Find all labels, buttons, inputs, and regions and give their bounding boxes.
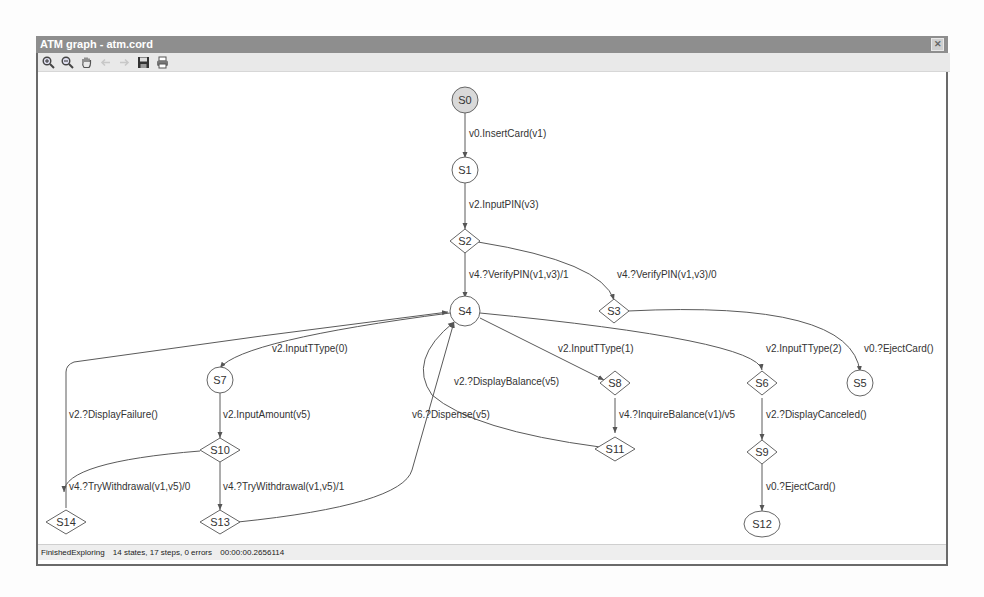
edge-label: v2.?DisplayCanceled() [766, 409, 867, 420]
zoom-out-icon [61, 56, 74, 69]
zoom-in-icon [42, 56, 55, 69]
edge-label: v4.?TryWithdrawal(v1,v5)/0 [69, 481, 191, 492]
edge-label: v6.?Dispense(v5) [412, 409, 490, 420]
zoom-out-button[interactable] [61, 56, 74, 69]
forward-button[interactable] [118, 56, 131, 69]
edge-label: v2.?DisplayFailure() [69, 409, 158, 420]
edge-label: v0.?EjectCard() [766, 481, 835, 492]
svg-text:S10: S10 [210, 444, 230, 456]
svg-text:S7: S7 [213, 374, 226, 386]
edge-label: v2.?DisplayBalance(v5) [454, 376, 559, 387]
edge-s3-s5 [628, 310, 860, 372]
print-button[interactable] [156, 56, 169, 69]
status-bar: FinishedExploring 14 states, 17 steps, 0… [38, 544, 946, 560]
edge-labels: v0.InsertCard(v1) v2.InputPIN(v3) v4.?Ve… [69, 128, 933, 492]
node-s6[interactable]: S6 [747, 371, 777, 395]
close-button[interactable]: ✕ [931, 38, 944, 51]
svg-text:S14: S14 [56, 516, 76, 528]
pan-button[interactable] [80, 56, 93, 69]
toolbar [38, 53, 950, 72]
graph-canvas[interactable]: S0 S1 S2 S3 S4 S5 S6 S7 S8 S9 S10 S11 S1… [38, 72, 946, 542]
node-s14[interactable]: S14 [46, 510, 86, 534]
svg-text:S1: S1 [458, 164, 471, 176]
svg-text:S8: S8 [608, 377, 621, 389]
title-bar[interactable]: ATM graph - atm.cord ✕ [36, 36, 948, 53]
edge-s4-s6 [480, 313, 762, 370]
node-s3[interactable]: S3 [599, 299, 629, 323]
node-s12[interactable]: S12 [744, 511, 780, 537]
node-s8[interactable]: S8 [600, 371, 630, 395]
edge-label: v2.InputAmount(v5) [223, 409, 310, 420]
node-s10[interactable]: S10 [200, 438, 240, 462]
svg-text:S2: S2 [458, 235, 471, 247]
edge-s4-s7 [220, 313, 450, 368]
node-s7[interactable]: S7 [207, 367, 233, 393]
edge-label: v0.?EjectCard() [864, 343, 933, 354]
back-button[interactable] [99, 56, 112, 69]
svg-text:S12: S12 [752, 518, 772, 530]
status-summary: 14 states, 17 steps, 0 errors [113, 548, 212, 557]
node-s4[interactable]: S4 [450, 296, 480, 326]
node-s2[interactable]: S2 [450, 229, 480, 253]
atm-graph-window: ATM graph - atm.cord ✕ [36, 36, 948, 566]
node-s1[interactable]: S1 [452, 157, 478, 183]
svg-text:S5: S5 [853, 377, 866, 389]
svg-text:S9: S9 [755, 446, 768, 458]
status-elapsed: 00:00:00.2656114 [220, 548, 284, 557]
svg-text:S13: S13 [210, 516, 230, 528]
zoom-in-button[interactable] [42, 56, 55, 69]
svg-text:S6: S6 [755, 377, 768, 389]
arrow-left-icon [99, 56, 112, 69]
svg-text:S11: S11 [606, 443, 625, 455]
node-s11[interactable]: S11 [595, 437, 635, 461]
status-state: FinishedExploring [41, 548, 105, 557]
svg-text:S3: S3 [607, 305, 620, 317]
edge-label: v4.?VerifyPIN(v1,v3)/0 [617, 269, 717, 280]
node-s13[interactable]: S13 [200, 510, 240, 534]
state-graph: S0 S1 S2 S3 S4 S5 S6 S7 S8 S9 S10 S11 S1… [38, 72, 946, 542]
edge-label: v0.InsertCard(v1) [469, 128, 546, 139]
edge-label: v4.?VerifyPIN(v1,v3)/1 [469, 269, 569, 280]
edge-label: v2.InputTType(1) [558, 343, 634, 354]
hand-icon [80, 56, 93, 69]
save-button[interactable] [137, 56, 150, 69]
edge-label: v2.InputTType(2) [766, 343, 842, 354]
svg-text:S0: S0 [458, 94, 471, 106]
node-s5[interactable]: S5 [847, 370, 873, 396]
printer-icon [156, 56, 169, 69]
edge-label: v4.?TryWithdrawal(v1,v5)/1 [223, 481, 345, 492]
svg-text:S4: S4 [458, 305, 471, 317]
node-s0[interactable]: S0 [452, 87, 478, 113]
floppy-disk-icon [137, 56, 150, 69]
node-s9[interactable]: S9 [747, 440, 777, 464]
edge-label: v2.InputPIN(v3) [469, 199, 538, 210]
window-title: ATM graph - atm.cord [40, 38, 153, 50]
edge-label: v4.?InquireBalance(v1)/v5 [619, 409, 736, 420]
arrow-right-icon [118, 56, 131, 69]
edge-label: v2.InputTType(0) [272, 343, 348, 354]
